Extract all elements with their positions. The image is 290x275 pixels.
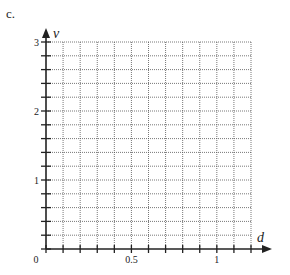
x-tick-label: 0.5 bbox=[125, 254, 138, 265]
tick-labels: 00.51123 bbox=[34, 37, 220, 265]
axes bbox=[42, 28, 272, 253]
x-axis-label: d bbox=[257, 230, 265, 245]
x-axis-arrow-icon bbox=[262, 245, 272, 253]
x-tick-label: 1 bbox=[214, 254, 219, 265]
x-tick-label: 0 bbox=[34, 254, 39, 265]
y-tick-label: 3 bbox=[34, 37, 39, 48]
y-axis-label: v bbox=[53, 26, 60, 41]
y-axis-arrow-icon bbox=[42, 28, 50, 38]
blank-graph-grid: 00.51123 v d bbox=[0, 0, 290, 275]
y-tick-label: 1 bbox=[34, 175, 39, 186]
y-tick-label: 2 bbox=[34, 106, 39, 117]
grid-lines bbox=[46, 42, 251, 249]
